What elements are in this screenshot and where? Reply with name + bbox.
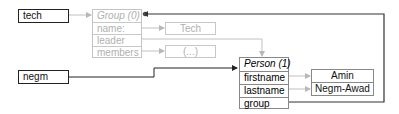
person-object-title: Person (1): [240, 58, 288, 71]
person-object: Person (1) firstname lastname group: [239, 57, 289, 109]
person-field-firstname: firstname: [240, 71, 288, 84]
group-members-value: (...): [165, 45, 216, 58]
negm-to-person-arrow: [68, 68, 237, 77]
group-field-name: name:: [93, 22, 141, 34]
group-members-value-text: (...): [183, 46, 198, 57]
group-object-title: Group (0): [93, 10, 141, 22]
variable-tech: tech: [18, 9, 69, 23]
group-field-leader: leader: [93, 34, 141, 46]
variable-negm-label: negm: [23, 71, 48, 82]
variable-tech-label: tech: [23, 10, 42, 21]
person-firstname-value-text: Amin: [331, 70, 354, 81]
person-lastname-value-text: Negm-Awad: [315, 83, 370, 94]
variable-negm: negm: [18, 70, 69, 84]
person-lastname-value: Negm-Awad: [311, 82, 374, 96]
group-name-value: Tech: [165, 22, 216, 35]
person-field-lastname: lastname: [240, 84, 288, 97]
person-field-group: group: [240, 97, 288, 110]
group-field-members: members: [93, 46, 141, 58]
person-firstname-value: Amin: [311, 69, 374, 83]
group-object: Group (0) name: leader members: [92, 9, 142, 58]
group-name-value-text: Tech: [180, 23, 201, 34]
